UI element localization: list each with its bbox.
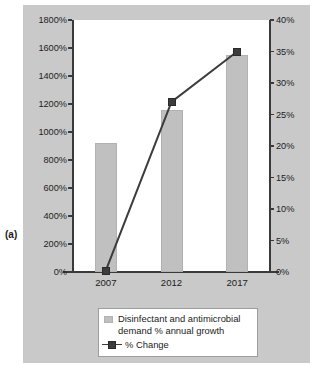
bar-2012 [161, 110, 183, 272]
line-marker-2017 [233, 48, 241, 56]
left-axis-tick-label: 1600% [38, 43, 67, 53]
left-axis-tick-label: 400% [44, 211, 68, 221]
right-axis-tick-label: 25% [276, 110, 294, 120]
right-axis-tick-label: 15% [276, 173, 294, 183]
legend-entry-line: % Change [102, 339, 169, 350]
line-marker-2007 [102, 267, 110, 275]
right-axis-tick [270, 208, 274, 209]
right-axis-tick-label: 40% [276, 15, 294, 25]
left-axis-tick-label: 1000% [38, 127, 67, 137]
left-axis-spine [72, 20, 74, 273]
left-axis-tick-label: 1200% [38, 99, 67, 109]
left-axis-tick [68, 75, 72, 76]
left-axis-tick-label: 200% [44, 239, 68, 249]
right-axis-tick-label: 35% [276, 47, 294, 57]
x-axis-tick-label: 2007 [84, 277, 128, 288]
left-axis-tick [68, 243, 72, 244]
legend-entry-bar-label: Disinfectant and antimicrobial demand % … [118, 313, 257, 336]
legend-entry-line-label: % Change [125, 339, 169, 350]
legend-entry-bar: Disinfectant and antimicrobial demand % … [104, 313, 257, 336]
left-axis-tick [68, 19, 72, 20]
right-axis-tick-label: 20% [276, 141, 294, 151]
right-axis-tick [270, 82, 274, 83]
legend-line-marker-icon [102, 340, 122, 349]
left-axis-tick [68, 131, 72, 132]
left-axis-tick [68, 47, 72, 48]
line-marker-2012 [168, 98, 176, 106]
right-axis-tick-label: 30% [276, 78, 294, 88]
left-axis-tick-label: 0% [54, 267, 67, 277]
bar-2017 [226, 55, 248, 272]
right-axis-tick [270, 240, 274, 241]
right-axis-tick [270, 19, 274, 20]
left-axis-tick-label: 600% [44, 183, 68, 193]
left-axis-tick-label: 1400% [38, 71, 67, 81]
x-axis-tick-label: 2017 [215, 277, 259, 288]
left-axis-tick [68, 159, 72, 160]
bar-2007 [95, 143, 117, 272]
chart-legend: Disinfectant and antimicrobial demand % … [98, 308, 258, 357]
left-axis-tick-label: 1800% [38, 15, 67, 25]
left-axis-tick [68, 103, 72, 104]
right-axis-tick-label: 5% [276, 236, 289, 246]
right-axis-tick [270, 271, 274, 272]
left-axis-tick [68, 187, 72, 188]
right-axis-tick-label: 0% [276, 267, 289, 277]
right-axis-tick [270, 177, 274, 178]
x-axis-tick-label: 2012 [150, 277, 194, 288]
right-axis-tick [270, 145, 274, 146]
right-axis-tick [270, 114, 274, 115]
right-axis-tick [270, 51, 274, 52]
legend-bar-swatch-icon [104, 316, 113, 323]
left-axis-tick-label: 800% [44, 155, 68, 165]
figure-sublabel: (a) [5, 229, 17, 240]
left-axis-tick [68, 271, 72, 272]
left-axis-tick [68, 215, 72, 216]
chart-figure: (a) 0%200%400%600%800%1000%1200%1400%160… [0, 0, 326, 373]
right-axis-tick-label: 10% [276, 204, 294, 214]
